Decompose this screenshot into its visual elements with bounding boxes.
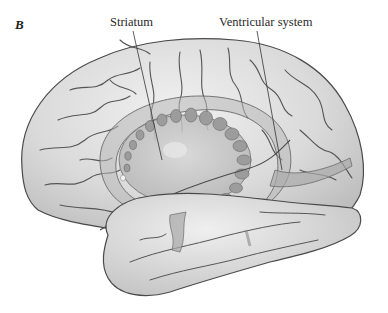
- temporal-lobe: [103, 193, 360, 295]
- brain-illustration: [0, 0, 388, 313]
